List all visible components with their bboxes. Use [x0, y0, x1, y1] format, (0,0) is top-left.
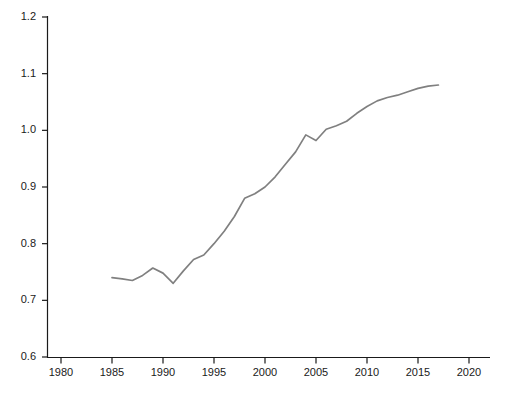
x-tick-label: 2015	[398, 367, 438, 378]
data-series-group	[112, 85, 438, 283]
chart-container: 0.60.70.80.91.01.11.2 198019851990199520…	[0, 0, 506, 397]
x-tick-label: 2005	[296, 367, 336, 378]
x-tick-label: 1985	[92, 367, 132, 378]
y-axis-ticks	[42, 17, 48, 357]
y-tick-label: 0.8	[6, 238, 36, 249]
y-tick-label: 0.9	[6, 181, 36, 192]
x-axis-ticks	[61, 358, 469, 364]
plot-area	[0, 0, 506, 397]
x-tick-label: 1990	[143, 367, 183, 378]
axis-lines	[47, 16, 490, 358]
x-tick-label: 1995	[194, 367, 234, 378]
x-tick-label: 2020	[449, 367, 489, 378]
data-line	[112, 85, 438, 283]
y-tick-label: 1.2	[6, 11, 36, 22]
y-tick-label: 0.7	[6, 294, 36, 305]
x-tick-label: 2010	[347, 367, 387, 378]
y-tick-label: 1.1	[6, 68, 36, 79]
y-tick-label: 1.0	[6, 124, 36, 135]
x-tick-label: 2000	[245, 367, 285, 378]
y-tick-label: 0.6	[6, 351, 36, 362]
x-tick-label: 1980	[41, 367, 81, 378]
